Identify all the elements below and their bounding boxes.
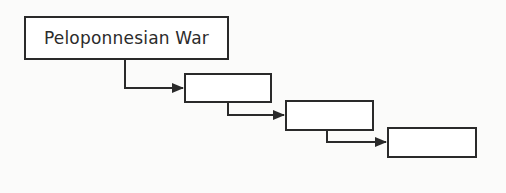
connector-arrow-2 <box>228 102 284 115</box>
connector-arrow-3 <box>327 130 386 142</box>
box-label: Peloponnesian War <box>44 28 209 48</box>
connector-arrow-1 <box>125 59 183 88</box>
empty-box-4 <box>387 127 477 158</box>
empty-box-3 <box>285 100 374 131</box>
empty-box-2 <box>184 73 272 103</box>
box-peloponnesian-war: Peloponnesian War <box>24 16 229 60</box>
